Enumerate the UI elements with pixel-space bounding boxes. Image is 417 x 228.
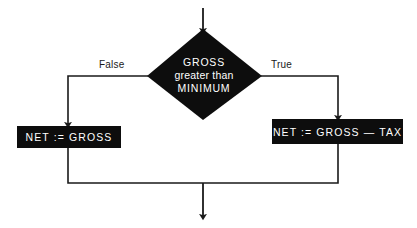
decision-diamond bbox=[147, 29, 262, 120]
edge-label-true: True bbox=[271, 59, 292, 70]
flowchart-graphics bbox=[0, 0, 417, 228]
process-left-box bbox=[17, 126, 121, 148]
false-branch-connector bbox=[68, 76, 150, 124]
true-branch-connector bbox=[259, 76, 338, 117]
merge-connector-right bbox=[203, 144, 338, 183]
process-right-box bbox=[272, 119, 403, 144]
edge-label-false: False bbox=[99, 59, 124, 70]
flowchart-canvas: GROSS greater than MINIMUM NET := GROSS … bbox=[0, 0, 417, 228]
merge-connector-left bbox=[68, 148, 203, 183]
